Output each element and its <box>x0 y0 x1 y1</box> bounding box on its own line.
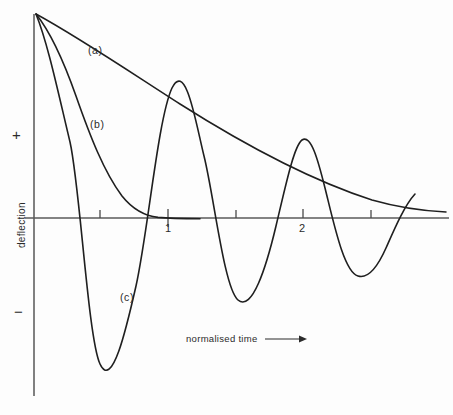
x-axis-title: normalised time <box>186 333 258 344</box>
curve-label-c: (c) <box>120 291 134 303</box>
damped-response-figure: (a) (b) (c) + − deflection 1 2 normalise… <box>0 0 453 415</box>
curve-b-critically-damped <box>36 14 200 219</box>
curve-label-b: (b) <box>90 118 105 130</box>
x-tick-label-1: 1 <box>165 222 171 234</box>
plot-canvas <box>0 0 453 415</box>
positive-sign-label: + <box>12 126 21 143</box>
curve-label-a: (a) <box>88 44 103 56</box>
negative-sign-label: − <box>14 303 23 320</box>
y-axis-title: deflection <box>16 202 27 248</box>
curve-c-underdamped <box>36 14 415 370</box>
x-tick-label-2: 2 <box>299 222 305 234</box>
x-axis-arrow-icon <box>265 336 307 343</box>
